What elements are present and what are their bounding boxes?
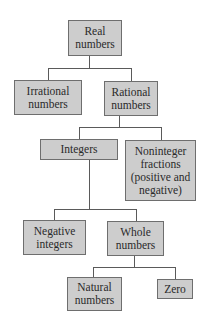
node-irrational-numbers: Irrational numbers xyxy=(14,80,82,115)
node-label: Natural numbers xyxy=(75,281,115,307)
node-label: Negative integers xyxy=(34,225,76,251)
node-noninteger-fractions: Noninteger fractions (positive and negat… xyxy=(125,140,196,201)
node-zero: Zero xyxy=(157,279,193,299)
node-whole-numbers: Whole numbers xyxy=(107,221,164,256)
number-classification-diagram: Real numbers Irrational numbers Rational… xyxy=(0,0,211,322)
connector xyxy=(79,127,80,139)
connector xyxy=(136,209,137,221)
connector xyxy=(131,68,132,81)
node-label: Zero xyxy=(164,283,186,296)
connector xyxy=(161,127,162,140)
node-negative-integers: Negative integers xyxy=(23,220,86,255)
node-label: Integers xyxy=(60,143,97,156)
connector xyxy=(175,267,176,279)
node-integers: Integers xyxy=(40,139,118,160)
connector xyxy=(93,267,176,268)
connector xyxy=(79,127,162,128)
connector xyxy=(89,56,90,68)
connector xyxy=(48,68,132,69)
node-real-numbers: Real numbers xyxy=(68,20,122,56)
node-label: Rational numbers xyxy=(111,86,151,112)
node-label: Real numbers xyxy=(75,25,115,51)
node-rational-numbers: Rational numbers xyxy=(104,81,158,116)
connector xyxy=(134,256,135,267)
connector xyxy=(89,160,90,209)
node-label: Irrational numbers xyxy=(27,85,70,111)
connector xyxy=(93,267,94,277)
node-label: Whole numbers xyxy=(116,226,156,252)
connector xyxy=(54,209,55,220)
node-label: Noninteger fractions (positive and negat… xyxy=(131,145,191,197)
node-natural-numbers: Natural numbers xyxy=(67,277,122,311)
connector xyxy=(48,68,49,80)
connector xyxy=(54,209,137,210)
